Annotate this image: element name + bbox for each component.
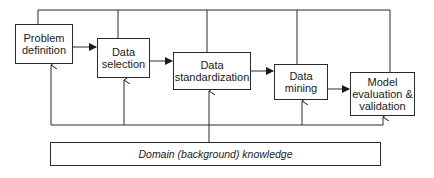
data-selection-label: Data selection <box>98 46 149 70</box>
data-standardization-label: Data standardization <box>174 59 250 83</box>
model-evaluation-label: Model evaluation & validation <box>352 76 414 112</box>
model-evaluation-box: Model evaluation & validation <box>350 72 415 116</box>
data-mining-box: Data mining <box>274 64 328 100</box>
domain-knowledge-box: Domain (background) knowledge <box>50 142 381 166</box>
data-standardization-box: Data standardization <box>173 52 251 90</box>
problem-definition-label: Problem definition <box>16 32 72 56</box>
data-selection-box: Data selection <box>97 38 150 78</box>
problem-definition-box: Problem definition <box>15 24 73 64</box>
domain-knowledge-label: Domain (background) knowledge <box>138 148 292 160</box>
data-mining-label: Data mining <box>281 70 321 94</box>
